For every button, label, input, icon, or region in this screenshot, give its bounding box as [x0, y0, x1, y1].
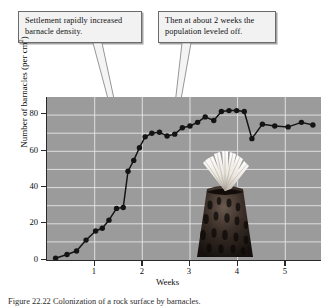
data-point [242, 109, 247, 114]
data-point [260, 121, 265, 126]
y-tick-label-0: 0 [16, 254, 38, 264]
plot-canvas [47, 97, 321, 260]
horizontal-gridlines [47, 115, 321, 242]
data-point [234, 108, 239, 113]
data-point [121, 205, 126, 210]
y-tick-80 [41, 113, 46, 114]
data-series-markers [53, 108, 316, 260]
data-point [53, 255, 58, 260]
y-tick-label-40: 40 [16, 181, 38, 191]
figure-barnacle-colonization: Settlement rapidly increased barnacle de… [0, 0, 335, 306]
data-point [131, 158, 136, 163]
data-point [226, 108, 231, 113]
x-tick-label-2: 2 [135, 266, 149, 276]
data-point [100, 226, 105, 231]
x-tick-label-1: 1 [87, 266, 101, 276]
data-point [149, 131, 154, 136]
data-point [172, 131, 177, 136]
barnacle-photograph [197, 151, 253, 257]
y-tick-20 [41, 222, 46, 223]
y-tick-0 [41, 259, 46, 260]
y-tick-60 [41, 150, 46, 151]
data-point [299, 120, 304, 125]
y-axis-label-text: Number of barnacles (per cm [19, 42, 29, 147]
y-axis-label-superscript: 2 [17, 39, 24, 42]
y-tick-40 [41, 186, 46, 187]
data-point [137, 145, 142, 150]
data-point [180, 125, 185, 130]
data-point [164, 133, 169, 138]
x-tick-label-3: 3 [182, 266, 196, 276]
data-series-line [56, 111, 313, 259]
data-point [106, 217, 111, 222]
callout-population-leveled: Then at about 2 weeks the population lev… [158, 11, 276, 43]
data-point [64, 252, 69, 257]
data-point [157, 130, 162, 135]
x-tick-label-5: 5 [278, 266, 292, 276]
data-point [211, 118, 216, 123]
data-point [125, 169, 130, 174]
data-point [195, 120, 200, 125]
data-point [310, 122, 315, 127]
barnacle-plates [203, 151, 249, 191]
data-point [272, 123, 277, 128]
y-axis-label-tail: ) [19, 36, 29, 39]
plot-area [46, 97, 321, 261]
y-axis-label: Number of barnacles (per cm2) [17, 17, 29, 167]
callout-settlement-increase: Settlement rapidly increased barnacle de… [18, 11, 142, 43]
data-point [114, 206, 119, 211]
data-point [249, 136, 254, 141]
data-point [142, 134, 147, 139]
data-point [219, 109, 224, 114]
data-point [285, 124, 290, 129]
x-axis-label: Weeks [0, 277, 335, 287]
data-point [203, 114, 208, 119]
data-point [187, 123, 192, 128]
data-point [74, 248, 79, 253]
figure-caption: Figure 22.22 Colonization of a rock surf… [8, 297, 328, 306]
x-tick-label-4: 4 [230, 266, 244, 276]
data-point [93, 228, 98, 233]
data-point [83, 237, 88, 242]
vertical-gridlines [95, 97, 286, 260]
y-tick-label-20: 20 [16, 217, 38, 227]
